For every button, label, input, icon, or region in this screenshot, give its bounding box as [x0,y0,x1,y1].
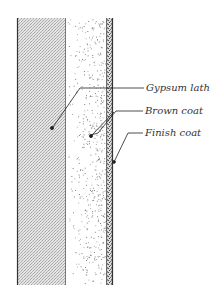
leader-finish-coat [113,133,143,163]
label-gypsum-lath: Gypsum lath [146,82,210,94]
label-finish-coat: Finish coat [145,127,201,139]
gypsum-lath-layer [17,18,66,285]
finish-coat-layer [106,18,113,285]
brown-coat-layer [68,19,106,283]
label-brown-coat: Brown coat [145,105,203,117]
wall-section-diagram [0,0,220,296]
leader-brown-coat [89,111,143,138]
